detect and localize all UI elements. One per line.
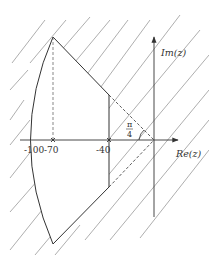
angle-denominator: 4 <box>127 130 132 139</box>
tick-label-minus-40: -40 <box>96 145 111 155</box>
angle-arc-icon <box>139 130 144 140</box>
complex-plane-diagram: -100 -70 -40 Re(z) Im(z) π 4 <box>0 0 209 263</box>
tick-label-minus-70: -70 <box>44 145 59 155</box>
region-boundary <box>31 37 110 244</box>
real-axis-label: Re(z) <box>175 148 201 159</box>
tick-label-minus-100: -100 <box>24 145 44 155</box>
imaginary-axis-label: Im(z) <box>160 47 186 58</box>
angle-numerator: π <box>127 120 132 129</box>
